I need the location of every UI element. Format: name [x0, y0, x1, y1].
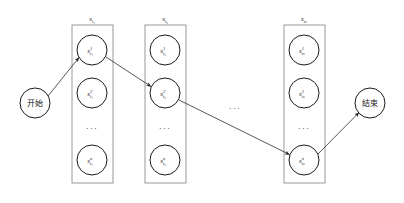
group-header-label-2: st₂ — [162, 15, 168, 24]
state-node-g2-2[interactable]: s2t₂ — [150, 78, 180, 108]
state-node-g1-2[interactable]: s2t₁ — [77, 78, 107, 108]
between-groups-ellipsis: ··· — [229, 103, 241, 113]
end-node[interactable]: 结束 — [355, 88, 385, 118]
end-node-label: 结束 — [362, 98, 378, 108]
state-node-g1-1[interactable]: s1t₁ — [77, 35, 107, 65]
group-boxes — [72, 25, 325, 183]
svg-text:s1t₂: s1t₂ — [160, 46, 166, 56]
group-1-nodes: s1t₁ s2t₁ ··· snt₁ — [77, 35, 107, 175]
state-node-g2-1[interactable]: s1t₂ — [150, 35, 180, 65]
group-headers: st₁ st₂ stₖ — [89, 15, 307, 24]
edge-groupk-noden-to-end — [318, 113, 359, 155]
state-node-g2-n[interactable]: snt₂ — [150, 145, 180, 175]
group-2-nodes: s1t₂ s2t₂ ··· snt₂ — [150, 35, 180, 175]
start-node[interactable]: 开始 — [20, 88, 50, 118]
svg-text:s1t₁: s1t₁ — [87, 46, 93, 56]
diagram-svg: st₁ st₂ stₖ s1t₁ — [0, 0, 404, 203]
start-node-label: 开始 — [27, 98, 43, 108]
state-node-gk-n[interactable]: sntₖ — [289, 145, 319, 175]
state-node-g1-n[interactable]: snt₁ — [77, 145, 107, 175]
state-node-gk-2[interactable]: s2tₖ — [289, 78, 319, 108]
svg-text:sntₖ: sntₖ — [299, 156, 305, 166]
svg-text:s2tₖ: s2tₖ — [299, 89, 305, 99]
group-header-label-k: stₖ — [301, 15, 307, 24]
diagram-canvas: st₁ st₂ stₖ s1t₁ — [0, 0, 404, 203]
group-header-label-1: st₁ — [89, 15, 95, 24]
svg-text:snt₁: snt₁ — [87, 156, 93, 166]
svg-text:s2t₂: s2t₂ — [160, 89, 166, 99]
svg-text:snt₂: snt₂ — [160, 156, 166, 166]
svg-text:s1tₖ: s1tₖ — [299, 46, 305, 56]
group-k-vertical-ellipsis: ··· — [298, 123, 310, 133]
group-2-vertical-ellipsis: ··· — [159, 123, 171, 133]
edge-start-to-group1-node1 — [48, 58, 79, 97]
group-1-vertical-ellipsis: ··· — [86, 123, 98, 133]
state-node-gk-1[interactable]: s1tₖ — [289, 35, 319, 65]
group-k-nodes: s1tₖ s2tₖ ··· sntₖ — [289, 35, 319, 175]
svg-text:s2t₁: s2t₁ — [87, 89, 93, 99]
